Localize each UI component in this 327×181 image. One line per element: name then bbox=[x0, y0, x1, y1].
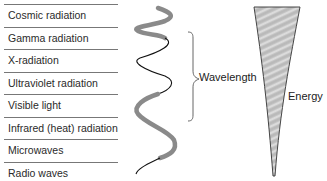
energy-label: Energy bbox=[288, 90, 323, 102]
wave-icon bbox=[136, 8, 175, 174]
diagram-graphics bbox=[0, 0, 327, 181]
brace-icon bbox=[188, 32, 199, 121]
wavelength-label: Wavelength bbox=[199, 71, 257, 83]
